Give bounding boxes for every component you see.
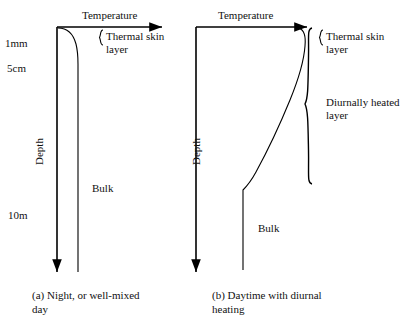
panel-a-caption: (a) Night, or well-mixed day: [32, 288, 140, 316]
panel-a-temperature-axis-label: Temperature: [82, 9, 137, 22]
panel-b-depth-axis-label: Depth: [190, 138, 203, 165]
panel-a-thermal-skin-layer-label: Thermal skin layer: [106, 30, 164, 56]
panel-a-profile-curve: [58, 28, 78, 272]
panel-a-depth-axis-label: Depth: [33, 138, 46, 165]
figure-ocean-temperature-profiles: Temperature Depth 1mm 5cm 10m Thermal sk…: [0, 0, 409, 323]
panel-b-thermal-skin-layer-label: Thermal skin layer: [326, 30, 384, 56]
panel-b-bulk-label: Bulk: [258, 222, 279, 235]
panel-b-thermal-skin-brace: [320, 30, 324, 45]
panel-b-temperature-axis-label: Temperature: [218, 9, 273, 22]
panel-a-depth-tick-10m: 10m: [8, 209, 28, 222]
panel-b-caption: (b) Daytime with diurnal heating: [212, 288, 322, 316]
panel-b-diurnal-layer-label: Diurnally heated layer: [326, 96, 400, 122]
panel-a-thermal-skin-brace: [100, 30, 104, 45]
panel-a-depth-tick-1mm: 1mm: [5, 37, 28, 50]
panel-a-depth-tick-5cm: 5cm: [7, 62, 26, 75]
panel-a-bulk-label: Bulk: [92, 182, 113, 195]
panel-b-diurnal-layer-brace: [305, 28, 312, 184]
